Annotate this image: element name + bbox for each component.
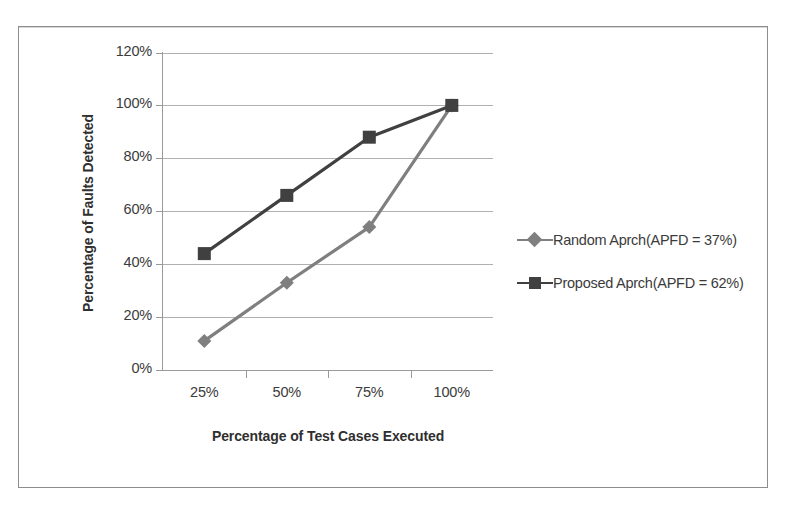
series-random: [197, 98, 459, 348]
legend-marker-square-icon: [517, 274, 553, 292]
series-line: [204, 105, 451, 341]
data-point-square: [198, 247, 211, 260]
legend-marker-diamond-icon: [517, 231, 553, 249]
data-point-square: [445, 99, 458, 112]
chart-legend: Random Aprch(APFD = 37%)Proposed Aprch(A…: [517, 218, 767, 304]
y-axis-title: Percentage of Faults Detected: [80, 73, 96, 353]
legend-label: Random Aprch(APFD = 37%): [553, 232, 737, 248]
series-line: [204, 105, 451, 253]
data-point-square: [363, 131, 376, 144]
data-point-square: [280, 189, 293, 202]
legend-diamond-icon: [527, 232, 543, 248]
legend-label: Proposed Aprch(APFD = 62%): [553, 275, 744, 291]
x-axis-title: Percentage of Test Cases Executed: [163, 428, 493, 444]
legend-square-icon: [529, 277, 541, 289]
legend-item[interactable]: Random Aprch(APFD = 37%): [517, 218, 767, 261]
line-chart: 0%20%40%60%80%100%120% 25%50%75%100% Per…: [0, 0, 791, 515]
legend-item[interactable]: Proposed Aprch(APFD = 62%): [517, 261, 767, 304]
series-proposed: [198, 99, 459, 260]
